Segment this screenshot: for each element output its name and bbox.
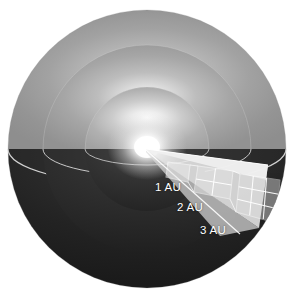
diagram-canvas [0, 0, 293, 302]
inverse-square-law-diagram: 1 AU 2 AU 3 AU [0, 0, 293, 302]
